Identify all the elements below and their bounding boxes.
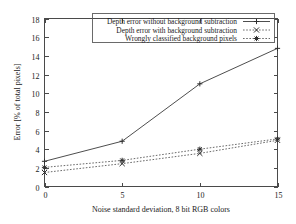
x-axis-ticks: 051015 <box>44 19 283 200</box>
series-line <box>45 139 278 167</box>
plot-frame <box>45 19 278 187</box>
data-point-marker <box>120 158 125 163</box>
data-point-marker <box>42 159 47 164</box>
data-point-marker <box>275 136 280 141</box>
chart-series <box>42 138 280 175</box>
series-layer <box>42 46 280 175</box>
x-axis-title: Noise standard deviation, 8 bit RGB colo… <box>92 205 230 214</box>
data-point-marker <box>275 46 280 51</box>
x-tick-label: 15 <box>275 191 283 200</box>
legend-marker-sample <box>254 36 259 41</box>
series-line <box>45 140 278 172</box>
y-tick-label: 0 <box>36 184 40 193</box>
y-tick-label: 16 <box>32 34 40 43</box>
x-tick-label: 5 <box>121 191 125 200</box>
chart-canvas: 024681012141618 051015 Depth error witho… <box>0 0 296 224</box>
data-point-marker <box>42 165 47 170</box>
series-line <box>45 48 278 161</box>
y-tick-label: 18 <box>32 16 40 25</box>
y-tick-label: 8 <box>36 109 40 118</box>
legend-marker-sample <box>254 27 259 32</box>
legend-label: Wrongly classified background pixels <box>125 34 237 43</box>
y-tick-label: 12 <box>32 72 40 81</box>
y-tick-label: 14 <box>32 53 40 62</box>
legend-marker-sample <box>254 19 259 24</box>
chart-legend: Depth error without background subtracti… <box>92 14 274 44</box>
data-point-marker <box>197 147 202 152</box>
x-tick-label: 10 <box>197 191 205 200</box>
y-tick-label: 10 <box>32 90 40 99</box>
y-tick-label: 4 <box>36 146 40 155</box>
chart-figure: 024681012141618 051015 Depth error witho… <box>0 0 296 224</box>
x-tick-label: 0 <box>44 191 48 200</box>
y-tick-label: 6 <box>36 128 40 137</box>
y-axis-title: Error [% of total pixels] <box>13 63 22 140</box>
y-tick-label: 2 <box>36 165 40 174</box>
